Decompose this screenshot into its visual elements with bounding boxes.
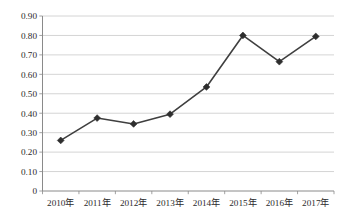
x-tick-label: 2016年 <box>266 197 293 208</box>
y-tick-label: 0.10 <box>21 167 37 177</box>
x-tick-label: 2017年 <box>302 197 329 208</box>
x-tick-label: 2015年 <box>229 197 256 208</box>
x-tick-label: 2010年 <box>47 197 74 208</box>
x-tick-label: 2014年 <box>193 197 220 208</box>
y-tick-label: 0.30 <box>21 128 37 138</box>
line-chart: 00.100.200.300.400.500.600.700.800.90 20… <box>0 0 341 214</box>
y-tick-label: 0.40 <box>21 109 37 119</box>
y-tick-label: 0.90 <box>21 11 37 21</box>
x-tick-label: 2012年 <box>120 197 147 208</box>
x-tick-label: 2013年 <box>156 197 183 208</box>
y-tick-label: 0.60 <box>21 70 37 80</box>
chart-canvas: 00.100.200.300.400.500.600.700.800.90 20… <box>0 0 341 214</box>
y-tick-label: 0.50 <box>21 89 37 99</box>
chart-background <box>0 0 341 214</box>
y-tick-label: 0.80 <box>21 31 37 41</box>
y-tick-label: 0.20 <box>21 147 37 157</box>
x-tick-label: 2011年 <box>84 197 111 208</box>
y-tick-label: 0 <box>32 186 37 196</box>
y-tick-label: 0.70 <box>21 50 37 60</box>
